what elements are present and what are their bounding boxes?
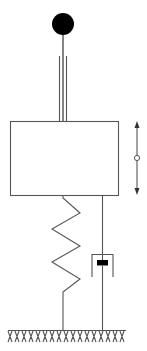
arrow-down-icon	[135, 188, 140, 195]
spring-mass-damper-diagram	[0, 0, 147, 351]
ground-hatch	[8, 331, 124, 342]
damper	[92, 196, 113, 330]
ground	[8, 331, 126, 343]
spring	[52, 196, 80, 330]
arrow-up-icon	[135, 121, 140, 128]
stem	[60, 35, 67, 121]
ball	[52, 13, 74, 35]
mass-block	[11, 122, 119, 196]
motion-arrow	[134, 121, 139, 195]
pivot-circle	[134, 155, 139, 160]
damper-piston	[97, 260, 108, 266]
